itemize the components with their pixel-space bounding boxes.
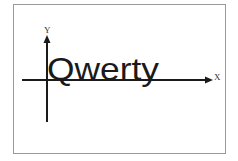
word-text: Qwerty [47, 51, 159, 87]
x-axis-arrow-icon [205, 77, 213, 84]
y-axis-label: Y [44, 25, 51, 35]
y-axis-arrow-icon [44, 35, 51, 43]
axes-diagram: Y X Qwerty [0, 0, 238, 161]
x-axis-label: X [214, 72, 221, 82]
